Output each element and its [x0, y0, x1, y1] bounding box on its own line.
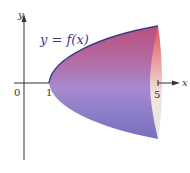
tick-label-1: 1	[46, 87, 52, 98]
solid-of-revolution-diagram: y x 0 1 5 y = f(x)	[0, 0, 190, 173]
x-axis-label: x	[182, 77, 188, 88]
origin-label: 0	[14, 87, 20, 98]
tick-label-5: 5	[154, 89, 160, 100]
y-axis-label: y	[17, 9, 24, 20]
function-label: y = f(x)	[39, 32, 89, 47]
x-axis-arrow-icon	[172, 81, 180, 86]
